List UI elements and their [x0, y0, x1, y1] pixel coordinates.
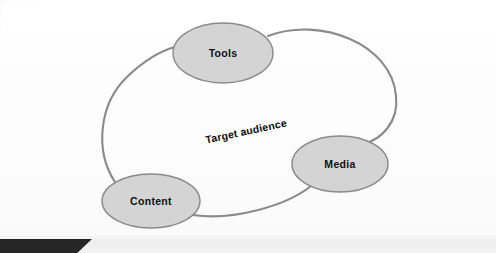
footer-hairline — [0, 236, 496, 237]
node-media[interactable]: Media — [292, 136, 388, 192]
node-content-label: Content — [130, 195, 172, 207]
node-media-label: Media — [324, 158, 355, 170]
node-content[interactable]: Content — [102, 174, 200, 228]
node-tools[interactable]: Tools — [173, 23, 273, 83]
node-tools-label: Tools — [209, 47, 238, 59]
connector-content-to-tools — [102, 47, 175, 182]
diagram-canvas: Tools Content Media Target audience — [0, 0, 496, 253]
cycle-diagram: Tools Content Media Target audience — [0, 0, 496, 253]
footer-dark-block — [0, 239, 92, 253]
connector-media-to-content — [193, 186, 311, 216]
center-label: Target audience — [204, 117, 287, 146]
